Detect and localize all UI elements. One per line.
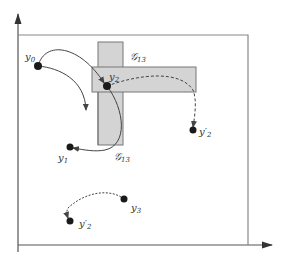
point-y2prime-right (190, 127, 197, 134)
label-y2prime-right: y′2 (198, 126, 212, 139)
point-y2prime-bottom (67, 218, 74, 225)
trajectory-y0-down (38, 66, 86, 110)
label-g13-top: 𝒢13 (130, 51, 146, 64)
point-y0 (34, 62, 42, 70)
label-y3: y3 (130, 202, 142, 215)
trajectory-diagram: y0 y2 𝒢13 𝒢13 y′2 y1 y3 y′2 (0, 0, 290, 260)
point-y2 (103, 82, 111, 90)
label-y1: y1 (57, 152, 68, 165)
label-y0: y0 (24, 51, 36, 64)
label-g13-bottom: 𝒢13 (114, 151, 130, 164)
g13-vertical-region (98, 42, 123, 145)
point-y3 (121, 196, 128, 203)
trajectory-y3-y2prime (67, 193, 124, 218)
label-y2prime-bottom: y′2 (78, 218, 92, 231)
point-y1 (67, 144, 74, 151)
